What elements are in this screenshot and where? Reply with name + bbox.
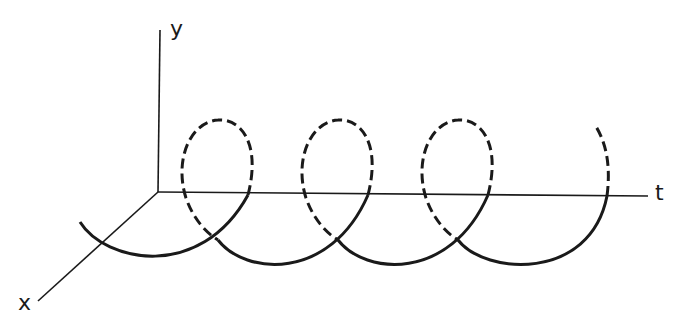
helix-diagram: [0, 0, 680, 333]
x-axis-label: x: [18, 292, 31, 314]
x-axis: [38, 192, 158, 301]
y-axis: [158, 30, 160, 192]
t-axis: [158, 192, 648, 196]
helix-front-arcs: [80, 195, 607, 264]
y-axis-label: y: [170, 18, 183, 40]
t-axis-label: t: [655, 182, 664, 204]
helix-back-arcs: [182, 120, 608, 240]
